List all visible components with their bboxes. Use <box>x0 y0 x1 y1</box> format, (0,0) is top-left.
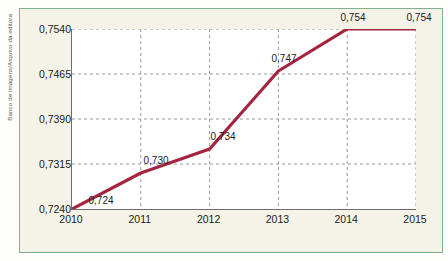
y-axis-tick-label: 0,7465 <box>25 68 71 80</box>
plot-svg <box>72 29 416 209</box>
horizontal-gridlines <box>72 29 416 164</box>
x-axis-tick-label: 2012 <box>197 213 220 225</box>
chart-screenshot: Banco de imagens/Arquivo da editora 0,75… <box>0 0 448 261</box>
plot-area <box>71 29 416 210</box>
y-axis-tick-label: 0,7540 <box>25 23 71 35</box>
image-credit: Banco de imagens/Arquivo da editora <box>0 0 18 261</box>
x-axis-tick-label: 2015 <box>403 213 426 225</box>
x-axis-tick-label: 2014 <box>335 213 358 225</box>
image-credit-text: Banco de imagens/Arquivo da editora <box>6 14 13 121</box>
x-axis-tick-labels: 2010 2011 2012 2013 2014 2015 <box>71 213 415 237</box>
data-series-line <box>72 29 416 209</box>
line-chart-figure: 0,7540 0,7465 0,7390 0,7315 0,7240 <box>19 8 443 253</box>
y-axis-tick-label: 0,7390 <box>25 113 71 125</box>
x-axis-tick-label: 2011 <box>129 213 152 225</box>
data-point-label: 0,754 <box>406 12 431 23</box>
x-axis-tick-label: 2010 <box>59 213 82 225</box>
y-axis-tick-label: 0,7315 <box>25 158 71 170</box>
data-point-label: 0,754 <box>340 12 365 23</box>
x-axis-tick-label: 2013 <box>266 213 289 225</box>
